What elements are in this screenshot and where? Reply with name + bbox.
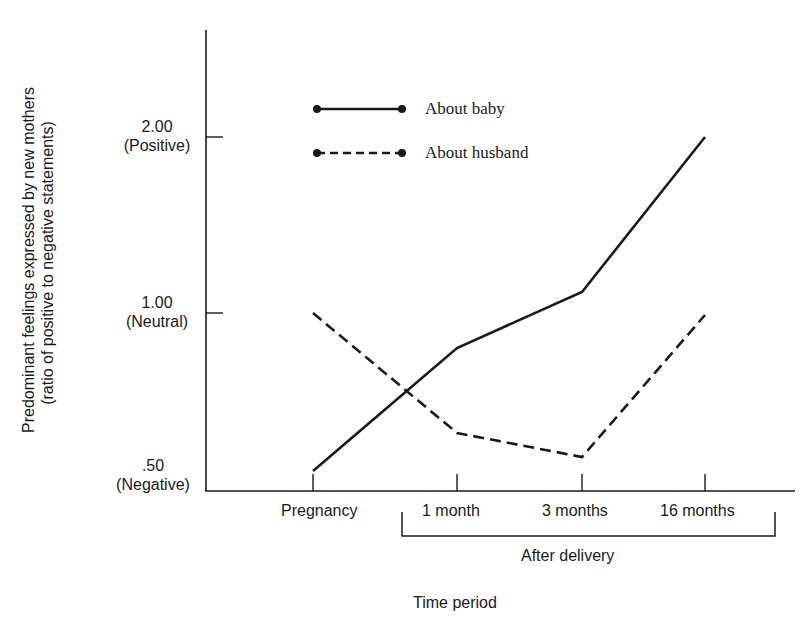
y-tick-value-1: 1.00 [102,293,212,312]
y-axis-title-line1: Predominant feelings expressed by new mo… [19,93,38,433]
y-axis-title: Predominant feelings expressed by new mo… [19,93,57,433]
y-tick-label-05: .50 (Negative) [98,456,208,494]
y-axis-title-line2: (ratio of positive to negative statement… [38,93,57,433]
x-axis-title: Time period [413,594,497,612]
x-tick-label-pregnancy: Pregnancy [281,502,358,520]
x-tick-label-1month: 1 month [422,502,480,520]
series-about-baby [313,137,705,471]
legend-sample-baby [313,105,406,113]
legend-sample-husband [313,149,406,157]
series-about-husband [313,313,705,457]
legend-label-baby: About baby [425,99,505,119]
y-tick-value-2: 2.00 [102,117,212,136]
y-tick-sublabel-negative: (Negative) [98,475,208,494]
y-tick-label-2: 2.00 (Positive) [102,117,212,155]
legend-label-husband: About husband [425,143,528,163]
x-tick-label-3months: 3 months [542,502,608,520]
y-tick-sublabel-positive: (Positive) [102,136,212,155]
y-tick-value-05: .50 [98,456,208,475]
y-tick-label-1: 1.00 (Neutral) [102,293,212,331]
x-tick-label-16months: 16 months [660,502,735,520]
y-tick-sublabel-neutral: (Neutral) [102,312,212,331]
after-delivery-label: After delivery [521,547,614,565]
